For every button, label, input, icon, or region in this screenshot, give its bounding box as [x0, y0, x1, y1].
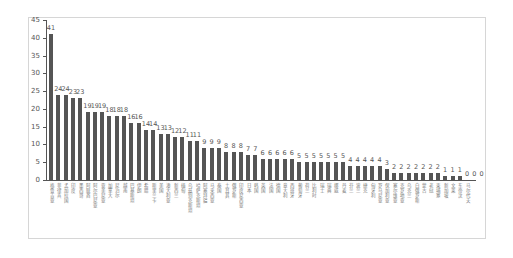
x-tick-label: 捷克: [362, 183, 367, 193]
x-tick-label: 东帝汶: [457, 183, 462, 198]
y-tick-label: 25: [0, 87, 40, 95]
bar: [202, 148, 206, 180]
bar: [195, 141, 199, 180]
y-tick-label: 30: [0, 69, 40, 77]
x-tick-label: 俄罗斯: [231, 183, 236, 198]
bar: [283, 159, 287, 180]
x-tick-label: 匈牙利: [370, 183, 375, 198]
bar: [49, 34, 53, 180]
bar: [392, 173, 396, 180]
y-tick-label: 35: [0, 52, 40, 60]
bar: [86, 112, 90, 180]
bar: [399, 173, 403, 180]
x-tick-label: 新加坡: [443, 183, 448, 198]
bar: [312, 162, 316, 180]
bar: [188, 141, 192, 180]
bar: [56, 95, 60, 180]
bar: [443, 176, 447, 180]
x-tick-label: 英国: [260, 183, 265, 193]
bar: [429, 173, 433, 180]
x-tick-label: 巴基斯坦: [129, 183, 134, 203]
bar: [246, 155, 250, 180]
bar: [341, 162, 345, 180]
x-tick-label: 白俄罗斯: [414, 183, 419, 203]
x-tick-label: 芬兰: [348, 183, 353, 193]
bar: [159, 134, 163, 180]
x-tick-label: 乌兹别克斯坦: [187, 183, 192, 213]
y-tick-label: 5: [0, 158, 40, 166]
x-tick-label: 阿塞拜疆: [202, 183, 207, 203]
x-tick-label: 克罗地亚: [399, 183, 404, 203]
bar: [326, 162, 330, 180]
x-tick-label: 菲律宾: [56, 183, 61, 198]
x-tick-label: 西班牙: [289, 183, 294, 198]
x-tick-label: 尼泊尔: [114, 183, 119, 198]
bar: [100, 112, 104, 180]
bar: [370, 166, 374, 180]
bar: [297, 162, 301, 180]
bar: [319, 162, 323, 180]
bar: [217, 148, 221, 180]
bar: [334, 162, 338, 180]
bar: [356, 166, 360, 180]
x-tick-label: 伊朗: [136, 183, 141, 193]
bar: [151, 130, 155, 180]
bar: [451, 176, 455, 180]
x-tick-label: 葡萄牙: [297, 183, 302, 198]
x-tick-label: 哈萨克斯坦: [195, 183, 200, 208]
x-tick-label: 保加利亚: [384, 183, 389, 203]
x-tick-label: 澳大利亚: [165, 183, 170, 203]
x-tick-label: 格鲁吉亚: [49, 183, 54, 203]
x-tick-label: 挪威: [333, 183, 338, 193]
bar: [385, 169, 389, 180]
x-tick-label: 阿尔巴尼亚: [92, 183, 97, 208]
x-tick-label: 丹麦: [341, 183, 346, 193]
bar: [268, 159, 272, 180]
x-tick-label: 美国: [158, 183, 163, 193]
bar: [239, 152, 243, 180]
bar: [71, 98, 75, 180]
x-tick-label: 瑞士: [319, 183, 324, 193]
bar: [363, 166, 367, 180]
bar: [275, 159, 279, 180]
bar: [348, 166, 352, 180]
bar: [180, 137, 184, 180]
x-tick-label: 比利时: [311, 183, 316, 198]
bar: [414, 173, 418, 180]
bar: [407, 173, 411, 180]
bar: [137, 123, 141, 180]
bar: [122, 116, 126, 180]
bar: [232, 152, 236, 180]
bar-plot-area: 4124242323191919181818161614141313121211…: [46, 20, 476, 180]
x-tick-label: 希腊: [143, 183, 148, 193]
bar: [290, 159, 294, 180]
x-tick-label: 文莱: [450, 183, 455, 193]
x-tick-label: 罗马尼亚: [377, 183, 382, 203]
x-tick-label: 土耳其: [224, 183, 229, 198]
bar: [115, 116, 119, 180]
bar: [173, 137, 177, 180]
x-tick-label: 印度尼西亚: [238, 183, 243, 208]
x-tick-label: 印度: [70, 183, 75, 193]
x-tick-label: 荷兰: [304, 183, 309, 193]
y-tick-label: 45: [0, 16, 40, 24]
x-tick-label: 韩国: [253, 183, 258, 193]
bar: [378, 166, 382, 180]
x-tick-label: 缅甸: [180, 183, 185, 193]
x-tick-label: 新西兰: [173, 183, 178, 198]
bar-value-label: 41: [45, 25, 57, 32]
x-tick-label: 孟加拉国: [63, 183, 68, 203]
bar-value-label: 11: [191, 132, 203, 139]
x-tick-label: 乌克兰: [406, 183, 411, 198]
x-tick-label: 柬埔寨: [435, 183, 440, 198]
y-tick-label: 0: [0, 176, 40, 184]
x-tick-label: 阿联酋: [85, 183, 90, 198]
x-tick-label: 马尔代夫: [465, 183, 470, 203]
bar: [144, 130, 148, 180]
x-tick-label: 法国: [268, 183, 273, 193]
bar-value-label: 0: [476, 171, 488, 178]
x-tick-label: 加拿大: [107, 183, 112, 198]
bar: [78, 98, 82, 180]
bar: [253, 155, 257, 180]
x-tick-label: 亚美尼亚: [100, 183, 105, 203]
